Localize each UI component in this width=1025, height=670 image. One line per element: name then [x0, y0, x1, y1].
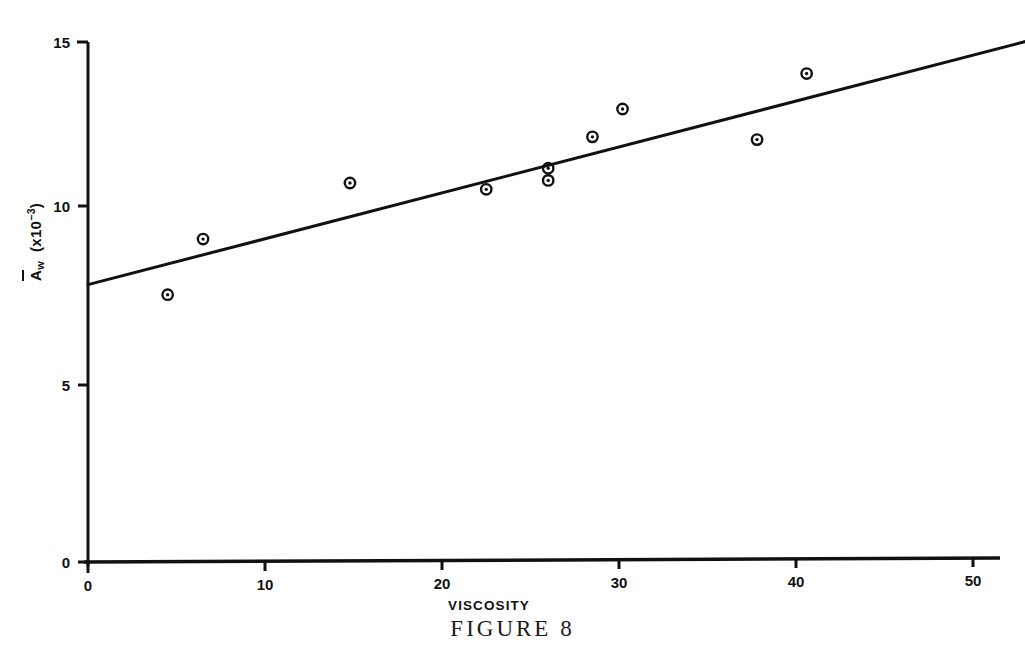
figure-caption: FIGURE 8: [0, 616, 1025, 642]
data-point-group: [162, 68, 811, 300]
y-tick-label-10: 10: [53, 198, 70, 215]
y-tick-label-15: 15: [53, 34, 70, 51]
x-tick-label-30: 30: [611, 574, 628, 591]
x-axis-title: VISCOSITY: [448, 598, 530, 613]
y-tick-label-5: 5: [62, 377, 70, 394]
data-point-center: [805, 72, 808, 75]
x-tick-label-10: 10: [257, 576, 274, 593]
scatter-plot: 15 10 5 0 0 10 20 30 40 50 VISCOSITY: [0, 0, 1025, 670]
data-point-center: [755, 138, 758, 141]
x-axis-line: [84, 558, 1000, 562]
y-tick-label-0: 0: [62, 554, 70, 571]
data-point-center: [547, 167, 550, 170]
y-axis-exponent: −3: [25, 208, 37, 221]
y-axis-subscript: w: [34, 261, 46, 270]
data-point-center: [485, 188, 488, 191]
x-tick-label-0: 0: [84, 577, 92, 594]
trend-line: [88, 41, 1025, 284]
data-point-center: [591, 135, 594, 138]
data-point-center: [166, 293, 169, 296]
data-point-center: [621, 107, 624, 110]
data-point-center: [348, 181, 351, 184]
data-point-center: [201, 237, 204, 240]
figure-container: 15 10 5 0 0 10 20 30 40 50 VISCOSITY Aw(…: [0, 0, 1025, 670]
x-tick-label-20: 20: [434, 575, 451, 592]
y-axis-symbol: A: [23, 270, 49, 281]
y-axis-title: Aw(x10−3): [18, 151, 44, 281]
x-tick-label-40: 40: [788, 573, 805, 590]
x-tick-label-50: 50: [965, 572, 982, 589]
data-point-center: [547, 179, 550, 182]
y-tick-marks: [77, 42, 88, 562]
